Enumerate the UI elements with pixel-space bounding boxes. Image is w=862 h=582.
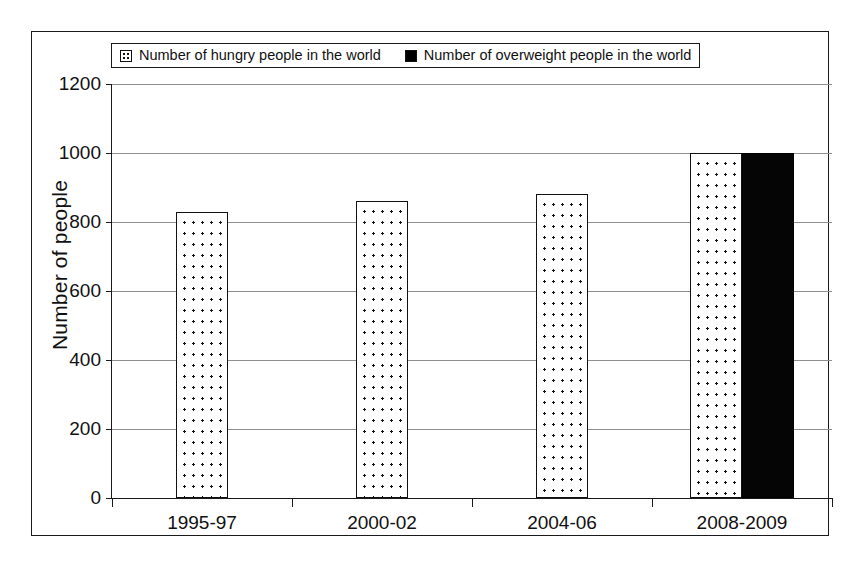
x-axis-tick [292,498,293,507]
legend-entry-hungry[interactable]: Number of hungry people in the world [120,48,381,63]
y-axis-tick-label: 1200 [59,73,101,95]
y-axis-tick-label: 400 [69,349,101,371]
legend-label-hungry: Number of hungry people in the world [139,48,381,63]
x-axis-tick [652,498,653,507]
bar [690,153,742,498]
y-axis-tick [106,153,112,154]
bar [176,212,228,498]
gridline [112,84,832,85]
y-axis-tick-label: 1000 [59,142,101,164]
y-axis-tick [106,360,112,361]
x-axis-tick [832,498,833,507]
bar [536,194,588,498]
bar [742,153,794,498]
chart-legend: Number of hungry people in the world Num… [111,43,700,68]
x-axis-tick [472,498,473,507]
chart-figure: Number of hungry people in the world Num… [31,31,829,536]
x-axis-tick-label: 2004-06 [527,512,597,534]
x-axis-tick-label: 2008-2009 [697,512,788,534]
dotted-square-icon [120,50,132,62]
y-axis-title-text: Number of people [48,180,72,350]
legend-entry-overweight[interactable]: Number of overweight people in the world [405,48,692,63]
x-axis-tick [112,498,113,507]
legend-label-overweight: Number of overweight people in the world [424,48,692,63]
bar [356,201,408,498]
x-axis-tick-label: 1995-97 [167,512,237,534]
y-axis-tick [106,291,112,292]
y-axis-tick-label: 0 [90,487,101,509]
x-axis-tick-label: 2000-02 [347,512,417,534]
y-axis-tick-label: 800 [69,211,101,233]
y-axis-tick-label: 600 [69,280,101,302]
y-axis-tick-label: 200 [69,418,101,440]
plot-area: 0200400600800100012001995-972000-022004-… [111,84,832,499]
y-axis-tick [106,84,112,85]
y-axis-tick [106,222,112,223]
solid-square-icon [405,50,417,62]
y-axis-tick [106,429,112,430]
